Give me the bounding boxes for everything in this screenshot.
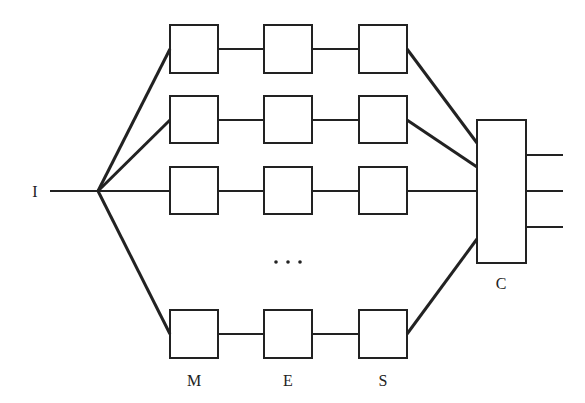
column-label-e: E — [283, 372, 293, 389]
input-label: I — [32, 183, 37, 200]
m-box-1 — [170, 25, 218, 73]
combiner-label: C — [496, 275, 507, 292]
row-1 — [170, 25, 407, 73]
column-label-m: M — [187, 372, 201, 389]
s-box-3 — [359, 167, 407, 214]
s-box-2 — [359, 96, 407, 143]
s-box-1 — [359, 25, 407, 73]
column-label-s: S — [379, 372, 388, 389]
e-box-3 — [264, 167, 312, 214]
e-box-4 — [264, 310, 312, 358]
s-box-4 — [359, 310, 407, 358]
m-box-2 — [170, 96, 218, 143]
output-lines — [526, 155, 563, 227]
e-box-1 — [264, 25, 312, 73]
row-2 — [170, 96, 407, 143]
row-3 — [170, 167, 477, 214]
m-box-3 — [170, 167, 218, 214]
ellipsis-dots — [274, 260, 302, 264]
m-box-4 — [170, 310, 218, 358]
row-4 — [170, 310, 407, 358]
combiner-box — [477, 120, 526, 263]
e-box-2 — [264, 96, 312, 143]
pipeline-diagram: I C M E S — [0, 0, 585, 403]
